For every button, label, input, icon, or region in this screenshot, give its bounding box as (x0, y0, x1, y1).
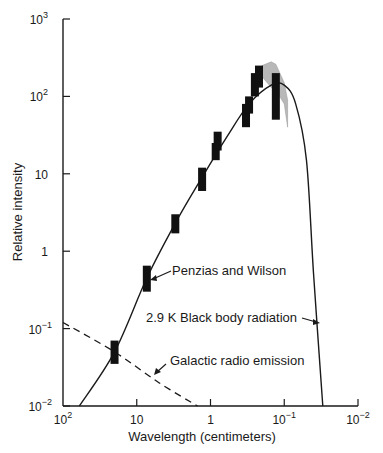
arrowhead-penzias-wilson (150, 275, 157, 281)
annotation-black-body: 2.9 K Black body radiation (146, 310, 297, 325)
measurement-error-bar (111, 341, 119, 364)
measurement-error-bar (255, 66, 263, 88)
cmb-spectrum-chart: 10310210110−110−2 10210110−110−2 Relativ… (0, 0, 383, 453)
y-axis-label: Relative intensity (10, 162, 25, 261)
y-tick-label: 103 (30, 10, 48, 27)
x-tick-label: 1 (207, 413, 214, 427)
x-axis-label: Wavelength (centimeters) (128, 429, 276, 444)
measurement-error-bar (143, 266, 151, 292)
y-tick-label: 10−1 (28, 320, 52, 337)
x-tick-label: 10−2 (346, 410, 370, 427)
y-tick-label: 10 (35, 168, 49, 182)
measurement-error-bar (171, 214, 179, 233)
measurement-error-bar (214, 132, 222, 151)
x-tick-label: 10−1 (272, 410, 296, 427)
measurement-error-bar (272, 73, 280, 120)
measurement-error-bar (245, 96, 253, 113)
annotations: Penzias and Wilson 2.9 K Black body radi… (146, 263, 320, 375)
x-tick-label: 10 (130, 413, 144, 427)
y-tick-label: 102 (30, 87, 48, 104)
y-ticks: 10310210110−110−2 (28, 10, 70, 414)
y-tick-label: 1 (41, 245, 48, 259)
annotation-galactic: Galactic radio emission (170, 353, 304, 368)
y-tick-label: 10−2 (28, 397, 52, 414)
x-tick-label: 102 (54, 410, 72, 427)
annotation-penzias-wilson: Penzias and Wilson (172, 263, 286, 278)
measurement-error-bar (198, 168, 206, 191)
